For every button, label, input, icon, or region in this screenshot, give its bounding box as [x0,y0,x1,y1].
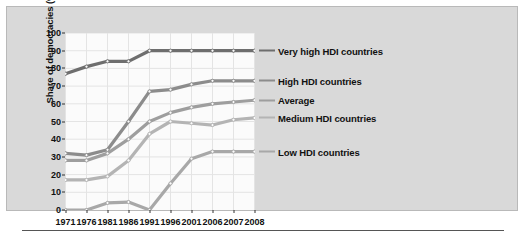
legend-line-icon [259,50,275,52]
legend-line-icon [259,117,275,119]
x-axis-tick-label: 1991 [139,217,159,227]
chart-figure: Share of democracies (%) 010203040506070… [0,0,524,241]
y-axis-tick-label: 50 [51,117,61,127]
chart-panel: Share of democracies (%) 010203040506070… [6,6,518,211]
legend-label: Very high HDI countries [278,45,383,56]
x-axis-tick-mark [212,210,213,213]
y-axis-tick-mark [62,103,65,104]
y-axis-tick-label: 30 [51,152,61,162]
x-axis-tick-mark [65,210,66,213]
legend-line-icon [259,80,275,82]
y-axis-tick-label: 60 [51,99,61,109]
x-axis-tick-mark [149,210,150,213]
y-axis-tick-label: 40 [51,134,61,144]
legend-line-icon [259,151,275,153]
plot-area: 0102030405060708090100197119761981198619… [65,33,255,210]
y-axis-tick-label: 90 [51,46,61,56]
y-axis-tick-mark [62,156,65,157]
y-axis-tick-mark [62,139,65,140]
x-axis-tick-label: 1976 [76,217,96,227]
legend-item[interactable]: Average [259,95,314,106]
x-axis-tick-mark [191,210,192,213]
y-axis-tick-mark [62,174,65,175]
y-axis-tick-label: 80 [51,63,61,73]
legend-label: High HDI countries [278,75,362,86]
x-axis-tick-mark [107,210,108,213]
x-axis-tick-mark [170,210,171,213]
plot-svg [65,33,255,210]
y-axis-tick-mark [62,33,65,34]
x-axis-tick-label: 1986 [118,217,138,227]
x-axis-tick-mark [86,210,87,213]
x-axis-tick-label: 2007 [223,217,243,227]
y-axis-tick-mark [62,50,65,51]
y-axis-tick-label: 70 [51,81,61,91]
legend-label: Low HDI countries [278,146,360,157]
y-axis-tick-label: 0 [56,205,61,215]
y-axis-tick-mark [62,121,65,122]
legend-label: Average [278,95,314,106]
legend-line-icon [259,99,275,101]
bottom-divider [22,230,504,231]
x-axis-tick-label: 1996 [160,217,180,227]
x-axis-tick-label: 1981 [97,217,117,227]
x-axis-tick-label: 2008 [244,217,264,227]
x-axis-tick-label: 1971 [55,217,75,227]
legend-item[interactable]: Low HDI countries [259,146,360,157]
legend-item[interactable]: High HDI countries [259,75,362,86]
y-axis-tick-label: 10 [51,187,61,197]
x-axis-tick-label: 2006 [202,217,222,227]
legend-label: Medium HDI countries [278,112,376,123]
x-axis-tick-mark [233,210,234,213]
legend-item[interactable]: Medium HDI countries [259,112,376,123]
x-axis-tick-mark [128,210,129,213]
y-axis-tick-label: 100 [46,28,61,38]
y-axis-tick-mark [62,86,65,87]
x-axis-tick-mark [254,210,255,213]
y-axis-tick-label: 20 [51,170,61,180]
x-axis-tick-label: 2001 [181,217,201,227]
y-axis-tick-mark [62,68,65,69]
y-axis-tick-mark [62,192,65,193]
legend-item[interactable]: Very high HDI countries [259,45,383,56]
